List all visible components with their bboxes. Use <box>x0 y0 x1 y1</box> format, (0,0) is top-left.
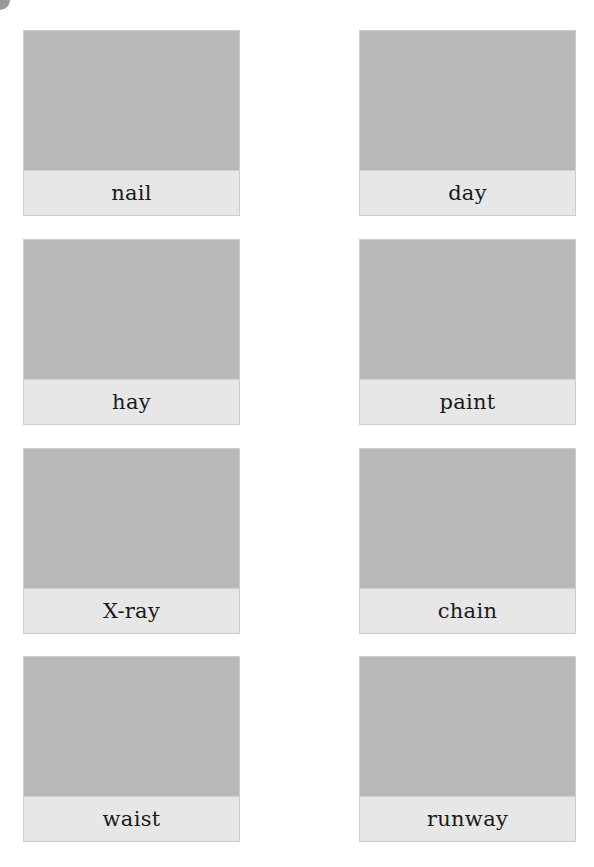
word-label: nail <box>24 170 239 215</box>
word-label: hay <box>24 379 239 424</box>
picture-placeholder <box>24 240 239 381</box>
word-card-chain: chain <box>359 448 576 634</box>
word-card-nail: nail <box>23 30 240 216</box>
word-label: waist <box>24 796 239 841</box>
picture-placeholder <box>360 240 575 381</box>
word-label: chain <box>360 588 575 633</box>
word-card-runway: runway <box>359 656 576 842</box>
picture-placeholder <box>24 449 239 590</box>
picture-placeholder <box>360 449 575 590</box>
word-label: paint <box>360 379 575 424</box>
word-card-x-ray: X-ray <box>23 448 240 634</box>
picture-placeholder <box>24 657 239 798</box>
word-label: runway <box>360 796 575 841</box>
word-label: X-ray <box>24 588 239 633</box>
page-corner-mark <box>0 0 10 10</box>
picture-placeholder <box>24 31 239 172</box>
word-card-day: day <box>359 30 576 216</box>
word-card-paint: paint <box>359 239 576 425</box>
picture-placeholder <box>360 657 575 798</box>
word-card-waist: waist <box>23 656 240 842</box>
word-label: day <box>360 170 575 215</box>
picture-placeholder <box>360 31 575 172</box>
word-card-hay: hay <box>23 239 240 425</box>
